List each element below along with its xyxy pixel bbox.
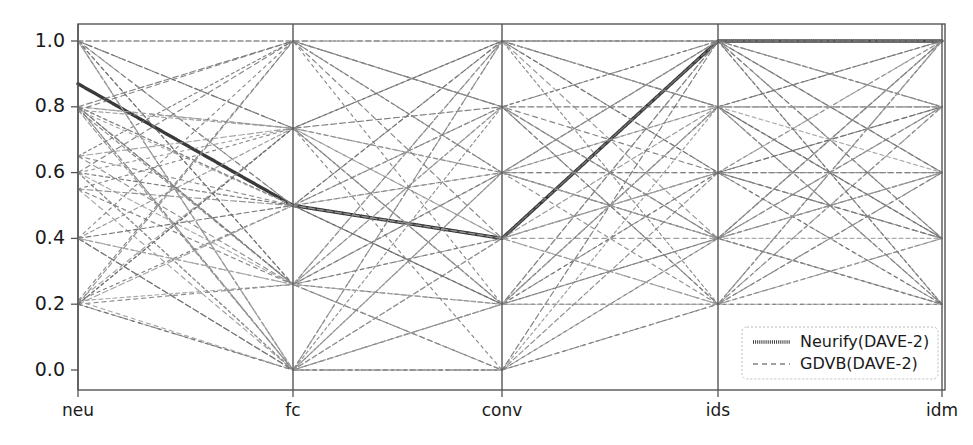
- x-tick-label-idm: idm: [926, 400, 958, 420]
- y-tick-label: 1.0: [35, 29, 65, 51]
- parallel-coordinates-figure: 0.00.20.40.60.81.0 neufcconvidsidm Neuri…: [0, 0, 973, 445]
- x-tick-label-neu: neu: [62, 400, 94, 420]
- chart-canvas: 0.00.20.40.60.81.0 neufcconvidsidm Neuri…: [0, 0, 973, 445]
- chart-legend: Neurify(DAVE-2)GDVB(DAVE-2): [742, 327, 938, 379]
- y-tick-label: 0.4: [35, 226, 65, 248]
- x-tick-label-conv: conv: [482, 400, 523, 420]
- y-tick-label: 0.8: [35, 94, 65, 116]
- legend-label-neurify: Neurify(DAVE-2): [800, 332, 929, 351]
- y-tick-label: 0.6: [35, 160, 65, 182]
- legend-label-gdvb: GDVB(DAVE-2): [800, 354, 918, 373]
- y-tick-label: 0.2: [35, 292, 65, 314]
- x-tick-label-fc: fc: [285, 400, 300, 420]
- x-tick-label-ids: ids: [706, 400, 731, 420]
- y-tick-label: 0.0: [35, 358, 65, 380]
